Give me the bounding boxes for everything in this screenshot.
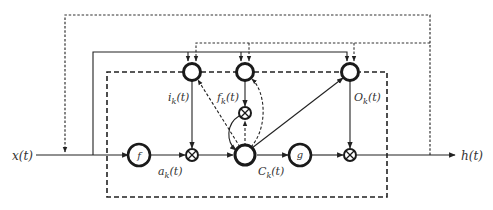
forget-multiply-node — [239, 107, 251, 119]
svg-text:g: g — [297, 149, 303, 160]
svg-text:Ok(t): Ok(t) — [354, 91, 381, 106]
input-gate-label: ik(t) — [168, 91, 189, 106]
input-label: x(t) — [12, 149, 33, 163]
cell-state-label: Ck(t) — [258, 165, 284, 180]
svg-text:Ck(t): Ck(t) — [258, 165, 284, 180]
input-multiply-node — [186, 149, 198, 161]
svg-text:ak(t): ak(t) — [158, 165, 182, 180]
output-activation-node: g — [289, 144, 311, 166]
svg-text:ik(t): ik(t) — [168, 91, 189, 106]
output-gate-node — [342, 64, 359, 81]
input-activation-node: f — [128, 144, 150, 166]
recurrent-loop-dotted — [65, 15, 430, 155]
svg-text:fk(t): fk(t) — [216, 91, 239, 106]
output-label: h(t) — [461, 149, 483, 163]
cell-boundary-dashed — [107, 72, 387, 197]
gate-connections — [192, 78, 350, 150]
input-gate-node — [184, 64, 201, 81]
lstm-diagram: f g x(t) h(t) ik(t) fk(t) Ok(t) ak(t) Ck… — [0, 0, 493, 210]
output-multiply-node — [344, 149, 356, 161]
cell-state-node — [235, 145, 255, 165]
peephole-connections — [198, 79, 263, 147]
output-gate-label: Ok(t) — [354, 91, 381, 106]
candidate-label: ak(t) — [158, 165, 182, 180]
forget-gate-node — [237, 64, 254, 81]
forget-gate-label: fk(t) — [216, 91, 239, 106]
